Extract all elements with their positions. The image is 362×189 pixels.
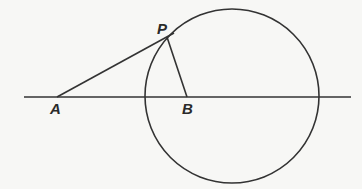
geometry-diagram: P A B xyxy=(0,0,362,189)
point-label-B: B xyxy=(182,100,193,117)
tangent-segment-AP xyxy=(57,33,174,97)
point-label-P: P xyxy=(157,20,168,37)
radius-segment-PB xyxy=(167,37,187,97)
point-label-A: A xyxy=(49,100,61,117)
